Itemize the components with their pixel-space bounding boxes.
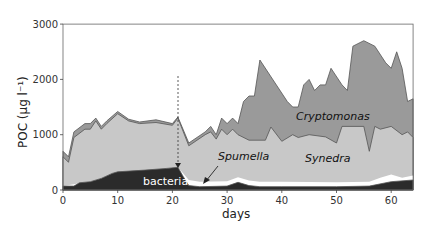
x-tick-label: 10: [111, 195, 124, 206]
x-tick-label: 40: [275, 195, 288, 206]
y-tick-label: 0: [52, 185, 58, 196]
x-tick-label: 20: [166, 195, 179, 206]
y-axis-label: POC (µg l⁻¹): [16, 76, 30, 148]
y-tick-label: 3000: [33, 19, 58, 30]
y-tick-label: 1000: [33, 129, 58, 140]
x-tick-label: 60: [385, 195, 398, 206]
x-axis-label: days: [222, 207, 250, 221]
label-spumella: Spumella: [218, 150, 270, 163]
label-bacteria: bacteria: [143, 175, 188, 188]
label-synedra: Synedra: [305, 152, 351, 165]
label-cryptomonas: Cryptomonas: [296, 110, 370, 123]
y-tick-label: 2000: [33, 74, 58, 85]
x-tick-label: 0: [60, 195, 66, 206]
x-tick-label: 50: [330, 195, 343, 206]
stacked-area-chart: 01000200030000102030405060 bacteria Spum…: [0, 0, 430, 235]
x-tick-label: 30: [221, 195, 234, 206]
